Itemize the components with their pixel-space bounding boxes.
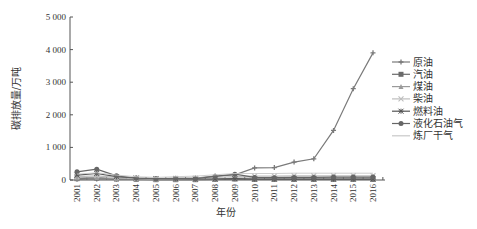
- legend-marker: [399, 60, 404, 65]
- line-chart: 01 0002 0003 0004 0005 000 2001200220032…: [0, 0, 477, 229]
- x-tick-label: 2002: [92, 184, 102, 202]
- data-point: [371, 50, 376, 55]
- data-point: [311, 175, 316, 180]
- x-axis-title: 年份: [216, 206, 236, 218]
- legend-item: 柴油: [392, 92, 433, 104]
- data-point: [193, 176, 198, 181]
- series-1: [75, 50, 376, 181]
- series-line: [77, 53, 373, 179]
- y-tick-label: 2 000: [46, 110, 67, 120]
- legend-label: 汽油: [413, 68, 433, 80]
- legend-marker: [399, 109, 404, 114]
- data-point: [272, 175, 277, 180]
- x-tick-label: 2005: [151, 184, 161, 203]
- data-point: [292, 175, 297, 180]
- legend-marker: [399, 72, 404, 77]
- x-tick-label: 2016: [368, 184, 378, 203]
- legend-label: 煤油: [413, 80, 433, 92]
- data-point: [94, 167, 99, 172]
- legend-item: 汽油: [392, 68, 433, 80]
- x-tick-label: 2011: [269, 184, 279, 202]
- x-tick-label: 2015: [348, 184, 358, 203]
- legend-label: 液化石油气: [413, 117, 463, 129]
- data-point: [272, 165, 277, 170]
- y-tick-label: 3 000: [46, 77, 67, 87]
- legend-label: 燃料油: [413, 105, 443, 117]
- y-axis: 01 0002 0003 0004 0005 000: [46, 12, 73, 185]
- x-tick-label: 2014: [329, 184, 339, 203]
- data-point: [292, 160, 297, 165]
- y-tick-label: 5 000: [46, 12, 67, 22]
- data-point: [351, 86, 356, 91]
- y-tick-label: 1 000: [46, 142, 67, 152]
- data-point: [331, 175, 336, 180]
- legend-label: 原油: [413, 56, 433, 68]
- y-tick-label: 4 000: [46, 45, 67, 55]
- x-tick-label: 2009: [230, 184, 240, 203]
- data-point: [252, 175, 257, 180]
- legend-item: 液化石油气: [392, 117, 463, 129]
- x-tick-label: 2010: [250, 184, 260, 203]
- x-tick-label: 2004: [131, 184, 141, 203]
- data-point: [232, 176, 237, 181]
- legend-marker: [399, 121, 404, 126]
- y-tick-label: 0: [62, 175, 67, 185]
- data-point: [252, 165, 257, 170]
- data-point: [232, 172, 237, 177]
- x-tick-label: 2012: [289, 184, 299, 202]
- legend: 原油汽油煤油柴油燃料油液化石油气炼厂干气: [392, 56, 463, 142]
- data-point: [371, 175, 376, 180]
- series-layer: [75, 50, 376, 182]
- x-tick-label: 2001: [72, 184, 82, 202]
- x-tick-label: 2007: [190, 184, 200, 203]
- data-point: [351, 175, 356, 180]
- legend-item: 燃料油: [392, 105, 443, 117]
- legend-label: 炼厂干气: [413, 129, 453, 141]
- data-point: [114, 173, 119, 178]
- y-axis-title: 碳排放量/万吨: [10, 67, 22, 130]
- x-tick-label: 2013: [309, 184, 319, 203]
- x-tick-label: 2006: [171, 184, 181, 203]
- x-tick-label: 2008: [210, 184, 220, 203]
- legend-item: 煤油: [392, 80, 433, 92]
- legend-item: 炼厂干气: [392, 129, 453, 141]
- x-tick-label: 2003: [111, 184, 121, 203]
- legend-item: 原油: [392, 56, 433, 68]
- legend-label: 柴油: [413, 92, 433, 104]
